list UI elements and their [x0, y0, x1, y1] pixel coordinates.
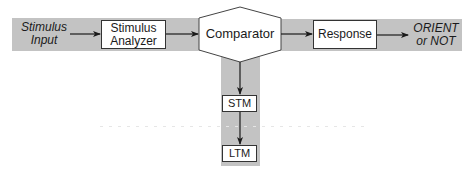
comparator-label: Comparator [199, 26, 281, 41]
